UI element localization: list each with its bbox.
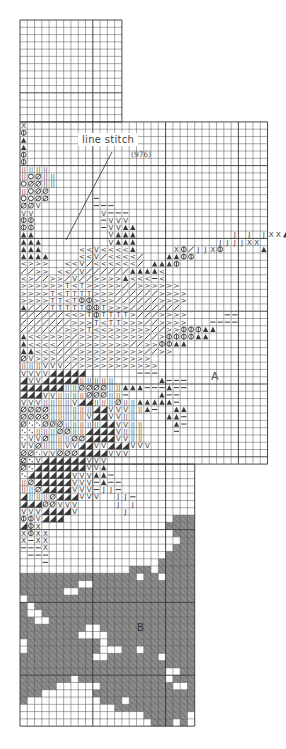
svg-text:||: || <box>72 428 76 436</box>
svg-text:X: X <box>21 537 26 545</box>
svg-text:>: > <box>159 348 165 356</box>
svg-text:||: || <box>102 377 106 385</box>
svg-text:V: V <box>109 450 114 458</box>
svg-text:X: X <box>36 537 41 545</box>
svg-text:||: || <box>29 166 33 174</box>
svg-text:V: V <box>50 362 55 370</box>
svg-text:V: V <box>145 442 150 450</box>
svg-text:>: > <box>137 333 143 341</box>
svg-text:<: < <box>101 246 107 254</box>
svg-text:||: || <box>94 377 98 385</box>
svg-text:V: V <box>101 210 106 218</box>
svg-text:>: > <box>137 282 143 290</box>
svg-text:>: > <box>152 341 158 349</box>
svg-text:>: > <box>174 326 180 334</box>
svg-text:X: X <box>21 122 26 130</box>
svg-text:<: < <box>101 260 107 268</box>
svg-text:||: || <box>102 399 106 407</box>
svg-text:<: < <box>115 260 121 268</box>
svg-text:>: > <box>108 362 114 370</box>
svg-text:V: V <box>79 268 84 276</box>
svg-text:>: > <box>28 260 34 268</box>
svg-text:||: || <box>43 493 47 501</box>
svg-text:V: V <box>36 399 41 407</box>
callout-thread-code: (976) <box>131 150 151 159</box>
svg-text:>: > <box>43 297 49 305</box>
svg-text:J: J <box>240 239 243 247</box>
svg-text:>: > <box>144 326 150 334</box>
svg-text:V: V <box>21 210 26 218</box>
svg-text:>: > <box>72 355 78 363</box>
svg-text:||: || <box>29 493 33 501</box>
svg-text:<: < <box>108 260 114 268</box>
svg-text:>: > <box>152 282 158 290</box>
svg-text:J: J <box>116 501 119 509</box>
svg-text:V: V <box>58 501 63 509</box>
svg-text:>: > <box>28 297 34 305</box>
svg-text:V: V <box>123 217 128 225</box>
svg-text:V: V <box>65 501 70 509</box>
svg-text:V: V <box>101 457 106 465</box>
svg-text:>: > <box>35 268 41 276</box>
svg-text:X: X <box>174 246 179 254</box>
svg-text:V: V <box>72 486 77 494</box>
svg-text:V: V <box>87 493 92 501</box>
svg-text:V: V <box>65 442 70 450</box>
svg-text:V: V <box>72 442 77 450</box>
svg-text:||: || <box>36 166 40 174</box>
svg-text:V: V <box>72 508 77 516</box>
svg-text:T: T <box>57 304 63 312</box>
svg-text:X: X <box>247 239 252 247</box>
svg-text:V: V <box>79 493 84 501</box>
svg-text:>: > <box>115 362 121 370</box>
svg-text:J: J <box>218 239 221 247</box>
svg-text:||: || <box>94 399 98 407</box>
svg-text:>: > <box>137 362 143 370</box>
svg-text:V: V <box>58 362 63 370</box>
svg-text:V: V <box>50 450 55 458</box>
svg-text:J: J <box>109 486 112 494</box>
svg-text:>: > <box>64 333 70 341</box>
svg-text:>: > <box>181 297 187 305</box>
svg-text:>: > <box>130 362 136 370</box>
svg-text:>: > <box>43 268 49 276</box>
svg-text:||: || <box>21 486 25 494</box>
svg-text:X: X <box>254 239 259 247</box>
svg-text:||: || <box>87 377 91 385</box>
svg-text:V: V <box>109 413 114 421</box>
svg-text:>: > <box>166 297 172 305</box>
svg-text:||: || <box>80 428 84 436</box>
svg-text:>: > <box>115 282 121 290</box>
svg-text:>: > <box>130 333 136 341</box>
svg-text:V: V <box>94 442 99 450</box>
svg-text:||: || <box>138 406 142 414</box>
svg-text:>: > <box>144 282 150 290</box>
svg-text:>: > <box>94 297 100 305</box>
svg-text:>: > <box>79 362 85 370</box>
svg-text:>: > <box>101 362 107 370</box>
svg-text:V: V <box>123 450 128 458</box>
svg-text:V: V <box>94 464 99 472</box>
svg-text:V: V <box>29 399 34 407</box>
svg-text:V: V <box>21 442 26 450</box>
svg-text:||: || <box>94 421 98 429</box>
svg-text:V: V <box>116 450 121 458</box>
svg-text:>: > <box>94 362 100 370</box>
svg-text:>: > <box>159 319 165 327</box>
svg-text:<: < <box>21 260 27 268</box>
callout-label-line-stitch: line stitch <box>78 133 138 146</box>
svg-text:X: X <box>211 246 216 254</box>
svg-text:V: V <box>21 508 26 516</box>
svg-text:J: J <box>204 246 207 254</box>
svg-text:>: > <box>86 362 92 370</box>
svg-text:||: || <box>51 180 55 188</box>
svg-text:>: > <box>123 362 129 370</box>
svg-text:||: || <box>43 399 47 407</box>
region-label-a: A <box>211 370 219 383</box>
svg-text:X: X <box>43 544 48 552</box>
svg-text:V: V <box>94 493 99 501</box>
svg-text:||: || <box>87 421 91 429</box>
svg-text:J: J <box>131 501 134 509</box>
svg-text:V: V <box>36 377 41 385</box>
svg-text:>: > <box>144 362 150 370</box>
